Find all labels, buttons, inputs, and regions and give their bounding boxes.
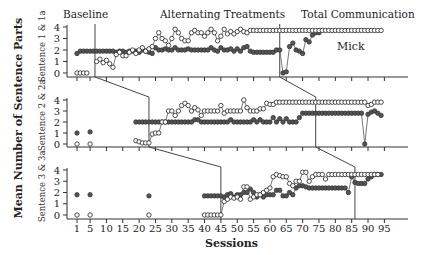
- svg-text:4: 4: [54, 22, 60, 33]
- data-point-filled: [363, 142, 367, 146]
- panel-label-2: Sentence 2 & 2a: [37, 79, 47, 151]
- svg-text:75: 75: [313, 223, 326, 234]
- svg-text:0: 0: [54, 210, 60, 221]
- data-point-filled: [88, 130, 92, 134]
- data-point-filled: [363, 181, 367, 185]
- svg-text:45: 45: [215, 223, 228, 234]
- data-point-open: [176, 31, 180, 35]
- data-point-open: [196, 108, 200, 112]
- data-point-open: [238, 109, 242, 113]
- data-point-filled: [291, 193, 295, 197]
- data-point-filled: [284, 70, 288, 74]
- phase-label-alternating: Alternating Treatments: [160, 8, 285, 20]
- data-point-filled: [75, 193, 79, 197]
- data-point-open: [75, 142, 79, 146]
- data-point-open: [166, 43, 170, 47]
- multiple-baseline-chart: 0123401234012341510152025303540455055606…: [0, 0, 430, 255]
- svg-text:35: 35: [182, 223, 195, 234]
- svg-text:3: 3: [54, 33, 60, 44]
- svg-text:70: 70: [296, 223, 309, 234]
- svg-text:0: 0: [54, 139, 60, 150]
- data-point-open: [170, 36, 174, 40]
- data-point-open: [157, 131, 161, 135]
- svg-text:10: 10: [100, 223, 113, 234]
- data-point-open: [323, 177, 327, 181]
- data-point-filled: [379, 113, 383, 117]
- svg-text:30: 30: [165, 223, 178, 234]
- svg-text:50: 50: [231, 223, 244, 234]
- data-point-open: [186, 39, 190, 43]
- phase-connector: [95, 77, 149, 97]
- svg-text:85: 85: [345, 223, 358, 234]
- data-point-open: [320, 172, 324, 176]
- data-point-open: [284, 175, 288, 179]
- data-point-open: [307, 179, 311, 183]
- svg-text:0: 0: [54, 68, 60, 79]
- data-point-open: [212, 31, 216, 35]
- data-point-open: [170, 109, 174, 113]
- data-point-open: [268, 186, 272, 190]
- data-point-open: [215, 109, 219, 113]
- data-point-filled: [294, 120, 298, 124]
- svg-text:1: 1: [54, 56, 60, 67]
- svg-text:1: 1: [54, 198, 60, 209]
- data-point-open: [157, 31, 161, 35]
- data-point-open: [379, 28, 383, 32]
- data-point-open: [304, 170, 308, 174]
- svg-text:4: 4: [54, 165, 60, 176]
- svg-text:80: 80: [329, 223, 342, 234]
- panel-label-1: Sentence 1 & 1a: [37, 10, 47, 82]
- data-point-filled: [343, 186, 347, 190]
- svg-text:95: 95: [378, 223, 391, 234]
- data-point-open: [222, 27, 226, 31]
- data-point-filled: [268, 120, 272, 124]
- data-point-open: [238, 197, 242, 201]
- svg-text:55: 55: [247, 223, 260, 234]
- svg-text:3: 3: [54, 176, 60, 187]
- data-point-open: [376, 172, 380, 176]
- data-point-filled: [307, 40, 311, 44]
- data-point-open: [88, 142, 92, 146]
- data-point-open: [176, 109, 180, 113]
- data-point-filled: [291, 41, 295, 45]
- data-point-open: [163, 120, 167, 124]
- panel-label-3: Sentence 3 & 3a: [37, 150, 47, 222]
- svg-text:1: 1: [54, 128, 60, 139]
- data-point-filled: [346, 190, 350, 194]
- svg-text:4: 4: [54, 95, 60, 106]
- data-point-open: [291, 184, 295, 188]
- svg-text:25: 25: [149, 223, 162, 234]
- data-point-open: [219, 213, 223, 217]
- phase-connector: [149, 147, 221, 167]
- svg-text:90: 90: [362, 223, 375, 234]
- data-point-filled: [271, 193, 275, 197]
- svg-text:65: 65: [280, 223, 293, 234]
- data-point-open: [163, 39, 167, 43]
- data-point-open: [153, 36, 157, 40]
- panel-2: 01234: [54, 95, 408, 152]
- data-point-open: [150, 44, 154, 48]
- data-point-open: [297, 179, 301, 183]
- svg-text:2: 2: [54, 187, 60, 198]
- data-point-filled: [147, 194, 151, 198]
- data-point-filled: [150, 51, 154, 55]
- data-point-filled: [278, 48, 282, 52]
- data-point-open: [75, 213, 79, 217]
- data-point-filled: [300, 51, 304, 55]
- data-point-filled: [75, 131, 79, 135]
- data-point-filled: [359, 111, 363, 115]
- phase-connector: [280, 77, 316, 97]
- data-point-filled: [278, 188, 282, 192]
- data-point-open: [186, 103, 190, 107]
- svg-text:1: 1: [74, 223, 80, 234]
- panel-3: 0123415101520253035404550556065707580859…: [54, 165, 408, 235]
- data-point-open: [173, 113, 177, 117]
- data-point-open: [88, 213, 92, 217]
- data-point-open: [147, 213, 151, 217]
- data-point-open: [261, 107, 265, 111]
- data-point-open: [379, 100, 383, 104]
- data-point-filled: [271, 115, 275, 119]
- svg-text:40: 40: [198, 223, 211, 234]
- data-point-filled: [297, 115, 301, 119]
- y-axis-title: Mean Number of Sentence Parts: [12, 39, 25, 219]
